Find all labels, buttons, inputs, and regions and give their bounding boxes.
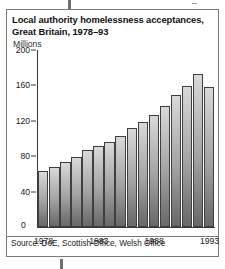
chart-source-note: Source: DoE, Scottish Office, Welsh Offi… (11, 239, 165, 248)
chart-plot-area: 4080120160200 (7, 50, 218, 234)
y-axis-tick-label: 80 (20, 151, 30, 161)
page-gutter-mark-bottom (60, 259, 63, 269)
bar (160, 106, 170, 227)
y-axis-tick-label: 120 (16, 116, 30, 126)
bar (115, 136, 125, 227)
y-axis-tick-label: 160 (16, 80, 30, 90)
source-divider (7, 236, 218, 237)
x-axis-tick-label: 1993 (200, 236, 219, 246)
bar (127, 128, 137, 227)
y-axis: 4080120160200 (7, 50, 37, 234)
bar (193, 74, 203, 227)
bar (38, 171, 48, 227)
page-crop-mark-top-right (192, 3, 197, 4)
chart-title-line-1: Local authority homelessness acceptances… (12, 14, 213, 26)
bar (82, 150, 92, 227)
bar (93, 146, 103, 227)
y-axis-tick-label: 40 (20, 187, 30, 197)
x-axis-line (37, 227, 215, 228)
y-axis-tick-mark (31, 50, 36, 51)
bar (60, 162, 70, 227)
y-axis-tick-mark (31, 85, 36, 86)
y-axis-tick-label: 200 (16, 45, 30, 55)
bar-series (38, 50, 215, 227)
bar (149, 115, 159, 227)
bar (104, 142, 114, 227)
chart-figure: Local authority homelessness acceptances… (6, 9, 219, 257)
y-axis-tick-mark (31, 156, 36, 157)
bar (171, 95, 181, 227)
page-gutter-mark-top (68, 0, 71, 9)
y-axis-tick-mark (31, 191, 36, 192)
chart-title-line-2: Great Britain, 1978–93 (12, 26, 213, 38)
y-axis-zero-label: 0 (21, 220, 26, 230)
bar (204, 87, 214, 227)
y-axis-tick-mark (31, 120, 36, 121)
bar (182, 86, 192, 227)
bar (49, 167, 59, 227)
bar (138, 122, 148, 227)
chart-unit-label: Millions (12, 39, 213, 49)
bar (71, 157, 81, 227)
chart-title-block: Local authority homelessness acceptances… (7, 10, 218, 49)
